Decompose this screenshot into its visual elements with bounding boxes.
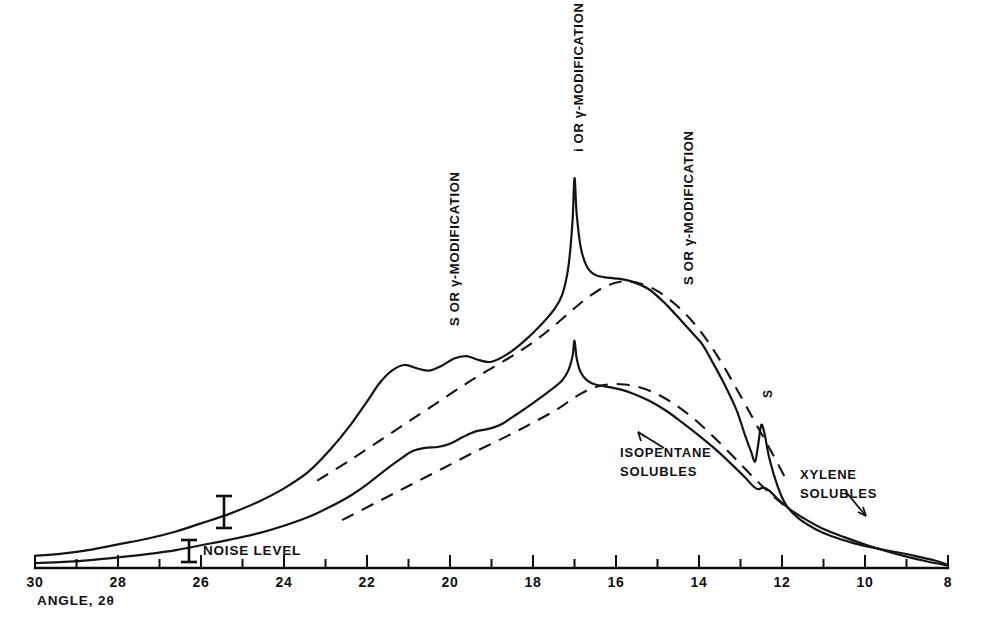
noise-marker-upper [216, 496, 232, 528]
x-axis-ticks [35, 555, 948, 568]
x-axis-tick-label: 30 [27, 574, 44, 590]
x-axis-tick-label: 28 [110, 574, 127, 590]
annotation-left-modification: S OR γ-MODIFICATION [447, 171, 462, 326]
x-axis-tick-label: 14 [691, 574, 708, 590]
axis-title-angle: ANGLE, 2θ [37, 593, 115, 608]
x-axis-tick-label: 8 [944, 574, 952, 590]
axis-group [35, 555, 948, 568]
annotation-noise-level: NOISE LEVEL [203, 543, 301, 558]
curves-group [35, 178, 948, 565]
x-axis-tick-label: 16 [608, 574, 625, 590]
x-axis-tick-label: 20 [442, 574, 459, 590]
x-axis-tick-label: 18 [525, 574, 542, 590]
leader-isopentane-head [638, 432, 646, 441]
x-axis-tick-label: 24 [276, 574, 293, 590]
x-axis-tick-label: 10 [857, 574, 874, 590]
annotation-xylene-solubles: XYLENE SOLUBLES [800, 466, 877, 504]
x-axis-tick-label: 22 [359, 574, 376, 590]
annotation-right-modification: S OR γ-MODIFICATION [681, 130, 696, 285]
noise-marker-lower [181, 540, 197, 562]
chart-canvas [0, 0, 983, 638]
annotation-s-peak: S [761, 390, 775, 398]
x-axis-tick-label: 26 [193, 574, 210, 590]
annotation-isopentane-solubles: ISOPENTANE SOLUBLES [620, 444, 712, 482]
xrd-figure: ANGLE, 2θ 30282624222018161412108 S OR γ… [0, 0, 983, 638]
curve-xylene-solubles [35, 178, 948, 565]
x-axis-tick-label: 12 [774, 574, 791, 590]
annotation-center-modification: i OR γ-MODIFICATION [571, 2, 586, 152]
